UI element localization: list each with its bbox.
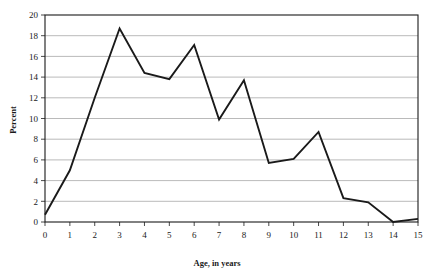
- x-tick-label: 3: [117, 230, 122, 240]
- x-tick-label: 7: [217, 230, 222, 240]
- y-tick-label: 6: [34, 155, 39, 165]
- y-tick-label: 0: [34, 217, 39, 227]
- y-tick-label: 2: [34, 197, 39, 207]
- y-tick-label: 8: [34, 134, 39, 144]
- y-axis-title: Percent: [8, 106, 18, 134]
- x-tick-label: 15: [414, 230, 424, 240]
- x-axis-title: Age, in years: [194, 258, 242, 268]
- y-tick-label: 14: [29, 72, 39, 82]
- x-tick-label: 2: [92, 230, 97, 240]
- line-chart: 0123456789101112131415 02468101214161820…: [0, 0, 435, 279]
- x-tick-label: 12: [339, 230, 348, 240]
- x-tick-label: 10: [289, 230, 299, 240]
- y-tick-label: 12: [29, 93, 38, 103]
- x-tick-label: 6: [192, 230, 197, 240]
- y-tick-label: 4: [34, 176, 39, 186]
- x-tick-label: 1: [68, 230, 73, 240]
- x-tick-label: 13: [364, 230, 374, 240]
- chart-container: 0123456789101112131415 02468101214161820…: [0, 0, 435, 279]
- x-tick-label: 9: [267, 230, 272, 240]
- y-tick-label: 10: [29, 114, 39, 124]
- y-tick-label: 20: [29, 10, 39, 20]
- x-tick-label: 0: [43, 230, 48, 240]
- x-tick-label: 11: [314, 230, 323, 240]
- x-tick-label: 5: [167, 230, 172, 240]
- y-tick-label: 18: [29, 31, 39, 41]
- x-tick-label: 8: [242, 230, 247, 240]
- y-tick-label: 16: [29, 52, 39, 62]
- x-tick-label: 14: [389, 230, 399, 240]
- x-tick-label: 4: [142, 230, 147, 240]
